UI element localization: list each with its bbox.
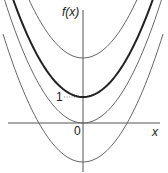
chart-canvas bbox=[0, 0, 168, 173]
tick-label-one: 1 bbox=[56, 91, 63, 103]
origin-label: 0 bbox=[74, 125, 81, 137]
x-axis-label: x bbox=[152, 126, 158, 138]
y-axis-label: f(x) bbox=[62, 6, 79, 18]
